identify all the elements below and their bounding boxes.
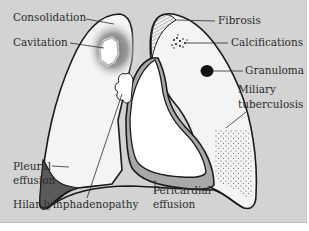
label-granuloma: Granuloma — [245, 64, 304, 77]
label-miliary-line1: Miliary — [238, 83, 276, 96]
label-pleural-line2: effusion — [13, 174, 55, 187]
label-miliary-line2: tuberculosis — [238, 98, 303, 111]
label-pericardial-line1: Pericardial — [153, 184, 211, 197]
label-fibrosis: Fibrosis — [218, 14, 261, 27]
label-pleural-line1: Pleural — [13, 160, 51, 173]
label-consolidation: Consolidation — [13, 11, 86, 24]
label-hilar-lymphadenopathy: Hilar lymphadenopathy — [13, 198, 138, 211]
label-calcifications: Calcifications — [231, 36, 303, 49]
label-pericardial-line2: effusion — [153, 198, 195, 211]
label-cavitation: Cavitation — [13, 36, 68, 49]
granuloma-nodule — [201, 65, 214, 77]
